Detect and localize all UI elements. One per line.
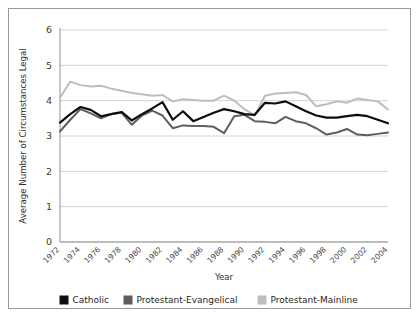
y-axis-title: Average Number of Circumstances Legal <box>18 48 28 223</box>
x-axis-title: Year <box>214 272 234 282</box>
y-tick-labels: 0123456 <box>46 24 52 247</box>
x-tick-label: 1974 <box>62 245 82 265</box>
x-tick-label: 1996 <box>287 245 307 265</box>
series-line-protestant-mainline <box>60 82 388 116</box>
x-tick-label: 1998 <box>308 245 328 265</box>
x-tick-label: 1988 <box>205 245 225 265</box>
y-tick-label: 2 <box>46 166 52 177</box>
x-tick-label: 2004 <box>369 245 389 265</box>
x-tick-label: 2002 <box>349 245 369 265</box>
y-axis-title-text: Average Number of Circumstances Legal <box>18 48 28 223</box>
legend-swatch-protestant-evangelical <box>124 296 133 305</box>
legend-item: Protestant-Evangelical <box>124 295 238 305</box>
y-tick-label: 6 <box>46 24 52 35</box>
x-tick-label: 1980 <box>123 245 143 265</box>
x-tick-label: 1986 <box>185 245 205 265</box>
legend-label: Protestant-Evangelical <box>137 295 238 305</box>
y-tick-label: 3 <box>46 130 52 141</box>
chart-legend: CatholicProtestant-EvangelicalProtestant… <box>60 295 359 305</box>
x-tick-label: 1994 <box>267 245 287 265</box>
gridlines <box>60 30 388 242</box>
x-tick-label: 1984 <box>164 245 184 265</box>
x-tick-label: 1982 <box>144 245 164 265</box>
x-tick-labels: 1972197419761978198019821984198619881990… <box>41 245 389 265</box>
chart-figure: 0123456 19721974197619781980198219841986… <box>0 0 419 317</box>
axis-lines <box>60 28 388 242</box>
series-line-protestant-evangelical <box>60 109 388 135</box>
legend-label: Protestant-Mainline <box>271 295 359 305</box>
y-tick-label: 0 <box>46 236 52 247</box>
y-tick-label: 5 <box>46 60 52 71</box>
x-tick-label: 2000 <box>328 245 348 265</box>
x-tick-label: 1972 <box>41 245 61 265</box>
plot-area: 0123456 19721974197619781980198219841986… <box>0 0 419 317</box>
x-tick-label: 1992 <box>246 245 266 265</box>
series-line-catholic <box>60 101 388 123</box>
x-tick-label: 1978 <box>103 245 123 265</box>
x-axis-title-text: Year <box>214 272 234 282</box>
legend-swatch-protestant-mainline <box>258 296 267 305</box>
line-chart-svg: 0123456 19721974197619781980198219841986… <box>0 0 419 317</box>
legend-label: Catholic <box>73 295 110 305</box>
y-tick-label: 4 <box>46 95 52 106</box>
legend-item: Protestant-Mainline <box>258 295 359 305</box>
x-tick-label: 1990 <box>226 245 246 265</box>
x-tick-label: 1976 <box>82 245 102 265</box>
legend-swatch-catholic <box>60 296 69 305</box>
data-series-lines <box>60 82 388 136</box>
legend-item: Catholic <box>60 295 110 305</box>
y-tick-label: 1 <box>46 201 52 212</box>
